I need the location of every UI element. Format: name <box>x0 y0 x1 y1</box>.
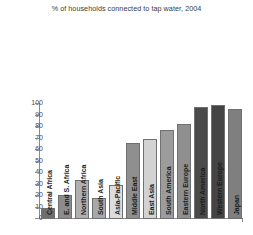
bar-slot: South Asia <box>92 103 106 219</box>
chart-title: % of households connected to tap water, … <box>0 4 253 13</box>
y-tick-mark <box>35 184 39 185</box>
bar-category-label: East Asia <box>147 184 154 215</box>
bar-slot: Central Africa <box>41 103 55 219</box>
y-tick-mark <box>35 115 39 116</box>
bar-slot: South America <box>160 103 174 219</box>
bar-slot: Middle East <box>126 103 140 219</box>
bar-category-label: Northern Africa <box>80 165 87 215</box>
bar-slot: Japan <box>228 103 242 219</box>
bar-slot: Eastern Europe <box>177 103 191 219</box>
y-tick-mark <box>35 103 39 104</box>
y-tick-mark <box>35 195 39 196</box>
y-tick-mark <box>35 149 39 150</box>
bar-slot: North America <box>194 103 208 219</box>
bar-slot: Asia-Pacific <box>109 103 123 219</box>
y-tick-mark <box>35 138 39 139</box>
bar-category-label: South America <box>164 167 171 216</box>
bar-slot: E. and S. Africa <box>58 103 72 219</box>
bar-slot: Western Europe <box>211 103 225 219</box>
bar-category-label: Central Africa <box>46 170 53 215</box>
y-tick-mark <box>35 218 39 219</box>
bar-category-label: North America <box>198 168 205 215</box>
x-axis-right-tick <box>242 218 243 222</box>
bar-category-label: Asia-Pacific <box>113 176 120 215</box>
bar-category-label: Middle East <box>130 177 137 215</box>
bar-slot: East Asia <box>143 103 157 219</box>
bar-category-label: South Asia <box>97 179 104 215</box>
bar-slot: Northern Africa <box>75 103 89 219</box>
bar-category-label: Japan <box>232 195 239 215</box>
y-tick-mark <box>35 161 39 162</box>
bar-category-label: E. and S. Africa <box>63 165 70 215</box>
y-tick-mark <box>35 207 39 208</box>
y-tick-mark <box>35 172 39 173</box>
y-tick-mark <box>35 126 39 127</box>
bar-category-label: Eastern Europe <box>181 164 188 215</box>
bar-series: Central AfricaE. and S. AfricaNorthern A… <box>41 103 242 219</box>
bar-category-label: Western Europe <box>215 162 222 215</box>
